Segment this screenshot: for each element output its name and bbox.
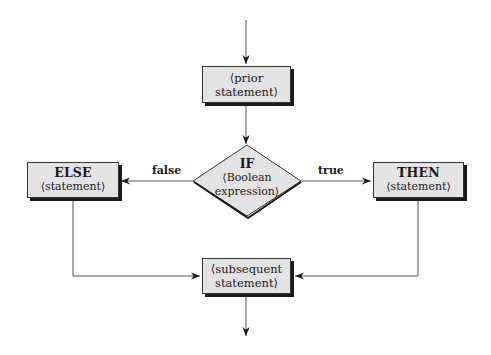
then-keyword: THEN (397, 166, 440, 180)
if-keyword: IF (197, 157, 297, 171)
else-to-subsequent-arrow (73, 201, 200, 276)
subsequent-line1: ⟨subsequent (211, 262, 282, 276)
else-statement: ⟨statement⟩ (41, 180, 106, 194)
if-decision-label: IF ⟨Boolean expression⟩ (197, 157, 297, 199)
prior-line2: statement⟩ (215, 85, 278, 99)
prior-line1: ⟨prior (230, 71, 263, 85)
then-statement-box: THEN ⟨statement⟩ (373, 162, 464, 198)
then-statement: ⟨statement⟩ (386, 180, 451, 194)
subsequent-line2: statement⟩ (215, 276, 278, 290)
false-edge-label: false (152, 164, 181, 177)
if-line2: expression⟩ (197, 185, 297, 199)
if-line1: ⟨Boolean (197, 171, 297, 185)
true-edge-label: true (318, 164, 344, 177)
else-keyword: ELSE (54, 166, 92, 180)
else-statement-box: ELSE ⟨statement⟩ (27, 162, 119, 198)
subsequent-statement-box: ⟨subsequent statement⟩ (202, 258, 291, 294)
then-to-subsequent-arrow (295, 201, 418, 276)
prior-statement-box: ⟨prior statement⟩ (202, 66, 291, 103)
